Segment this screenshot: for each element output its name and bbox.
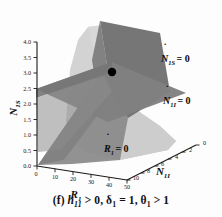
annot-n1i-eq: = 0 (177, 95, 190, 106)
annot-r1-eq: = 0 (115, 143, 128, 154)
caption-h-rel: > 0, (85, 194, 103, 206)
x-tick-4: 40 (106, 181, 112, 188)
z-tick-8: 4.0 (23, 38, 31, 45)
x-tick-1: 10 (52, 173, 58, 180)
z-tick-7: 3.5 (23, 54, 31, 61)
z-tick-3: 1.5 (23, 116, 31, 123)
x-tick-0: 0 (34, 170, 37, 177)
annot-r1-dot: ˙ (106, 132, 109, 143)
annot-n1i-sub: 1I (170, 101, 176, 108)
x-tick-3: 30 (88, 178, 94, 185)
z-axis-label-sub: 1S (14, 100, 22, 108)
z-tick-6: 3.0 (23, 69, 31, 76)
y-axis-label-sub: 1I (164, 172, 171, 180)
annot-r1-sub: 1 (111, 149, 114, 156)
caption-theta-sub: 1 (147, 200, 151, 209)
y-tick-2: 4 (175, 153, 178, 160)
annot-n1s-eq: = 0 (176, 53, 189, 64)
z-tick-0: 0.0 (23, 162, 31, 169)
equilibrium-point (108, 68, 116, 76)
annot-n1i-dot: ˙ (166, 84, 169, 95)
phase-portrait-plot: 4.0 3.5 3.0 2.5 2.0 1.5 1.0 0.5 0.0 0 10… (0, 0, 222, 217)
y-tick-4: 8 (147, 167, 150, 174)
caption-h-sub: 11 (74, 200, 82, 209)
z-tick-1: 0.5 (23, 147, 31, 154)
y-tick-0: 0 (203, 139, 206, 146)
figure-caption: (f) h11 > 0, δ1 = 1, θ1 > 1 (0, 194, 222, 209)
z-tick-5: 2.5 (23, 85, 31, 92)
caption-delta-rel: = 1, (119, 194, 137, 206)
y-tick-1: 2 (189, 146, 192, 153)
caption-theta-rel: > 1 (154, 194, 169, 206)
annot-n1s-sub: 1S (168, 59, 175, 66)
caption-delta-sub: 1 (112, 200, 116, 209)
x-tick-5: 50 (124, 183, 130, 190)
figure-panel: 4.0 3.5 3.0 2.5 2.0 1.5 1.0 0.5 0.0 0 10… (0, 0, 222, 217)
svg-text:R1= 0: R1= 0 (103, 143, 129, 156)
annot-n1s-dot: ˙ (164, 42, 167, 53)
x-tick-2: 20 (70, 175, 76, 182)
caption-index: (f) (53, 194, 65, 206)
z-tick-4: 2.0 (23, 100, 31, 107)
y-tick-5: 10 (133, 174, 139, 181)
z-tick-2: 1.0 (23, 131, 31, 138)
